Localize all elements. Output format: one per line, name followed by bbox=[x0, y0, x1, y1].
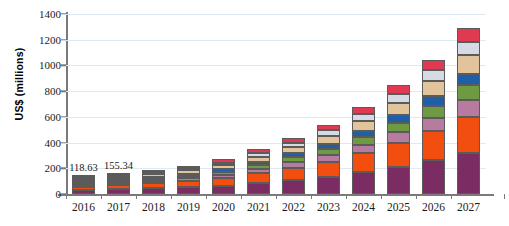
bar-segment-series-8[interactable] bbox=[457, 28, 480, 42]
x-axis-label-2027: 2027 bbox=[457, 201, 480, 213]
bar-segment-series-1[interactable] bbox=[317, 177, 340, 194]
bar-2018[interactable] bbox=[142, 170, 165, 194]
bar-segment-series-2[interactable] bbox=[317, 162, 340, 177]
bar-segment-series-1[interactable] bbox=[177, 187, 200, 194]
bar-segment-series-7[interactable] bbox=[352, 114, 375, 121]
bar-segment-series-4[interactable] bbox=[387, 123, 410, 133]
x-axis-tick-mark bbox=[66, 194, 67, 199]
bar-segment-series-1[interactable] bbox=[107, 189, 130, 194]
bar-segment-series-1[interactable] bbox=[457, 153, 480, 194]
bar-segment-series-1[interactable] bbox=[247, 183, 270, 194]
bar-segment-series-6[interactable] bbox=[457, 55, 480, 74]
y-axis-tick-mark bbox=[61, 65, 66, 66]
bar-segment-series-2[interactable] bbox=[387, 143, 410, 166]
bar-segment-series-3[interactable] bbox=[422, 118, 445, 132]
gridline bbox=[66, 40, 486, 41]
bar-segment-series-4[interactable] bbox=[352, 137, 375, 145]
bar-2023[interactable] bbox=[317, 125, 340, 194]
bar-2027[interactable] bbox=[457, 28, 480, 194]
bar-segment-series-2[interactable] bbox=[212, 178, 235, 185]
x-axis-label-2021: 2021 bbox=[247, 201, 270, 213]
bar-segment-series-2[interactable] bbox=[422, 131, 445, 160]
bar-segment-series-7[interactable] bbox=[387, 94, 410, 102]
x-axis-label-2020: 2020 bbox=[212, 201, 235, 213]
bar-segment-series-3[interactable] bbox=[457, 100, 480, 117]
x-axis-tick-mark bbox=[451, 194, 452, 199]
bar-segment-series-2[interactable] bbox=[282, 168, 305, 180]
bar-segment-series-2[interactable] bbox=[457, 117, 480, 153]
x-axis-label-2022: 2022 bbox=[282, 201, 305, 213]
x-axis-tick-mark bbox=[101, 194, 102, 199]
bar-segment-series-3[interactable] bbox=[387, 132, 410, 143]
y-axis-tick-mark bbox=[61, 13, 66, 14]
bar-segment-series-5[interactable] bbox=[422, 96, 445, 105]
y-axis-tick-label: 200 bbox=[45, 162, 62, 174]
bar-segment-series-1[interactable] bbox=[352, 172, 375, 194]
y-axis-tick-label: 1400 bbox=[39, 8, 61, 20]
bar-2017[interactable]: 155.34 bbox=[107, 173, 130, 194]
bar-2026[interactable] bbox=[422, 60, 445, 194]
y-axis-tick-mark bbox=[61, 90, 66, 91]
x-axis-label-2016: 2016 bbox=[72, 201, 95, 213]
bar-value-label-2016: 118.63 bbox=[69, 162, 98, 173]
y-axis-tick-mark bbox=[61, 142, 66, 143]
bar-segment-series-8[interactable] bbox=[352, 107, 375, 114]
y-axis-tick-label: 600 bbox=[45, 111, 62, 123]
x-axis-tick-mark bbox=[206, 194, 207, 199]
bar-value-label-2017: 155.34 bbox=[104, 160, 133, 171]
x-axis-tick-mark bbox=[381, 194, 382, 199]
bar-2016[interactable]: 118.63 bbox=[72, 175, 95, 194]
y-axis-tick-mark bbox=[61, 39, 66, 40]
bar-segment-series-1[interactable] bbox=[212, 186, 235, 194]
y-axis-tick-mark bbox=[61, 168, 66, 169]
x-axis-tick-mark bbox=[136, 194, 137, 199]
bar-2025[interactable] bbox=[387, 85, 410, 194]
bar-segment-series-1[interactable] bbox=[282, 180, 305, 194]
bar-segment-series-1[interactable] bbox=[387, 167, 410, 194]
x-axis-label-2025: 2025 bbox=[387, 201, 410, 213]
bar-segment-series-3[interactable] bbox=[352, 145, 375, 154]
y-axis-tick-mark bbox=[61, 116, 66, 117]
bar-segment-series-1[interactable] bbox=[422, 160, 445, 194]
x-axis-label-2026: 2026 bbox=[422, 201, 445, 213]
y-axis-tick-label: 400 bbox=[45, 137, 62, 149]
bar-segment-series-6[interactable] bbox=[317, 136, 340, 144]
bar-segment-series-6[interactable] bbox=[352, 121, 375, 131]
x-axis-tick-mark bbox=[504, 194, 505, 199]
bar-segment-series-8[interactable] bbox=[387, 85, 410, 94]
bar-2021[interactable] bbox=[247, 149, 270, 194]
bar-segment-series-2[interactable] bbox=[247, 173, 270, 183]
y-axis-tick-label: 1000 bbox=[39, 59, 61, 71]
y-axis-title: US$ (millions) bbox=[13, 34, 25, 134]
x-axis-label-2024: 2024 bbox=[352, 201, 375, 213]
bar-segment-series-4[interactable] bbox=[457, 85, 480, 100]
bar-2022[interactable] bbox=[282, 138, 305, 194]
y-axis-tick-label: 1200 bbox=[39, 34, 61, 46]
x-axis-label-2019: 2019 bbox=[177, 201, 200, 213]
x-axis-tick-mark bbox=[311, 194, 312, 199]
bar-segment-series-1[interactable] bbox=[142, 188, 165, 194]
bar-segment-series-5[interactable] bbox=[387, 115, 410, 123]
x-axis-label-2017: 2017 bbox=[107, 201, 130, 213]
x-axis-tick-mark bbox=[416, 194, 417, 199]
bar-segment-series-1[interactable] bbox=[72, 190, 95, 194]
bar-segment-series-4[interactable] bbox=[422, 106, 445, 118]
bar-segment-series-5[interactable] bbox=[457, 74, 480, 86]
x-axis-label-2018: 2018 bbox=[142, 201, 165, 213]
bar-2019[interactable] bbox=[177, 166, 200, 194]
bar-2020[interactable] bbox=[212, 159, 235, 194]
bar-segment-series-2[interactable] bbox=[352, 153, 375, 172]
x-axis-tick-mark bbox=[276, 194, 277, 199]
plot-area: 0200400600800100012001400118.63155.34 bbox=[66, 14, 486, 194]
x-axis-tick-mark bbox=[171, 194, 172, 199]
bar-2024[interactable] bbox=[352, 107, 375, 194]
bar-segment-series-6[interactable] bbox=[387, 103, 410, 116]
bar-segment-series-7[interactable] bbox=[422, 70, 445, 80]
bar-segment-series-6[interactable] bbox=[422, 81, 445, 97]
x-axis-label-2023: 2023 bbox=[317, 201, 340, 213]
x-axis-tick-mark bbox=[346, 194, 347, 199]
bar-segment-series-7[interactable] bbox=[457, 42, 480, 55]
bar-segment-series-3[interactable] bbox=[317, 155, 340, 162]
x-axis-tick-mark bbox=[241, 194, 242, 199]
bar-segment-series-8[interactable] bbox=[422, 60, 445, 71]
